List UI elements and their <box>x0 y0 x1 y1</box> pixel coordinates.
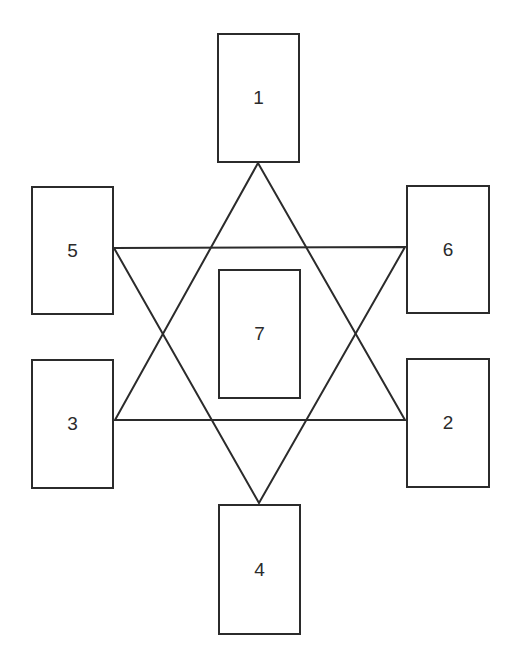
card-5: 5 <box>31 186 114 315</box>
card-3: 3 <box>31 359 114 489</box>
card-6-label: 6 <box>443 239 454 261</box>
card-7-label: 7 <box>254 323 265 345</box>
card-3-label: 3 <box>67 413 78 435</box>
card-5-label: 5 <box>67 240 78 262</box>
card-2-label: 2 <box>443 412 454 434</box>
card-4: 4 <box>218 504 301 635</box>
card-6: 6 <box>406 185 490 314</box>
card-2: 2 <box>406 358 490 488</box>
card-7: 7 <box>218 269 301 399</box>
card-4-label: 4 <box>254 559 265 581</box>
card-1: 1 <box>217 33 300 163</box>
card-1-label: 1 <box>253 87 264 109</box>
